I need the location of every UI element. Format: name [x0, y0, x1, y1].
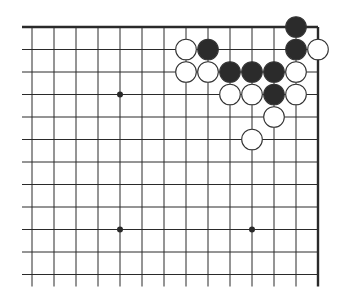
white-stone: [242, 84, 263, 105]
white-stone: [308, 39, 329, 60]
black-stone: [286, 39, 307, 60]
white-stone: [286, 62, 307, 83]
black-stone: [264, 62, 285, 83]
star-point: [117, 92, 123, 98]
black-stone: [220, 62, 241, 83]
black-stone: [264, 84, 285, 105]
black-stone: [198, 39, 219, 60]
white-stone: [198, 62, 219, 83]
black-stone: [286, 17, 307, 38]
go-board: [0, 0, 347, 306]
star-point: [249, 227, 255, 233]
white-stone: [286, 84, 307, 105]
white-stone: [264, 107, 285, 128]
star-point: [117, 227, 123, 233]
white-stone: [220, 84, 241, 105]
white-stone: [242, 129, 263, 150]
black-stone: [242, 62, 263, 83]
white-stone: [176, 62, 197, 83]
white-stone: [176, 39, 197, 60]
